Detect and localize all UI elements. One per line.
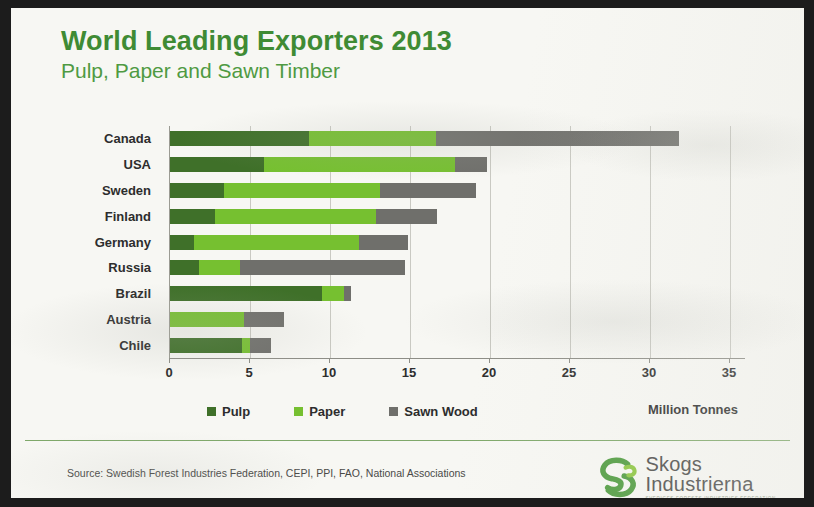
stacked-bar-germany[interactable] [170, 235, 408, 250]
bar-segment-pulp[interactable] [170, 209, 215, 224]
page-subtitle: Pulp, Paper and Sawn Timber [61, 59, 452, 83]
category-label: Chile [71, 332, 159, 358]
stacked-bar-chart: Canada USA Sweden Finland Germany Russia… [11, 118, 804, 418]
photo-border: World Leading Exporters 2013 Pulp, Paper… [0, 0, 814, 507]
x-axis-ticks: 05101520253035 [169, 358, 745, 380]
bar-segment-pulp[interactable] [170, 286, 322, 301]
bar-segment-pulp[interactable] [170, 183, 224, 198]
bar-segment-pulp[interactable] [170, 338, 242, 353]
logo-line-2: Industrierna [645, 474, 776, 494]
bar-segment-sawn-wood[interactable] [250, 338, 271, 353]
chart-legend: Pulp Paper Sawn Wood [207, 404, 478, 419]
stacked-bar-sweden[interactable] [170, 183, 476, 198]
legend-item-paper: Paper [294, 404, 345, 419]
bar-segment-paper[interactable] [322, 286, 344, 301]
x-axis-tick-label: 25 [562, 365, 576, 380]
legend-swatch-icon [389, 407, 398, 416]
bar-segment-paper[interactable] [309, 131, 435, 146]
bar-segment-paper[interactable] [199, 260, 241, 275]
x-axis-tick-label: 0 [165, 365, 172, 380]
x-axis-tick [729, 358, 730, 363]
bar-segment-paper[interactable] [215, 209, 377, 224]
bar-row [170, 152, 746, 178]
x-axis-tick [169, 358, 170, 363]
bar-segment-pulp[interactable] [170, 260, 199, 275]
legend-item-pulp: Pulp [207, 404, 250, 419]
bar-row [170, 255, 746, 281]
bar-segment-paper[interactable] [242, 338, 250, 353]
x-axis-tick-label: 15 [402, 365, 416, 380]
logo-s-mark-icon [597, 456, 639, 498]
bar-segment-paper[interactable] [194, 235, 359, 250]
bar-segment-paper[interactable] [170, 312, 244, 327]
bar-group [170, 126, 746, 358]
x-axis-tick-label: 20 [482, 365, 496, 380]
x-axis-tick [409, 358, 410, 363]
legend-label: Sawn Wood [404, 404, 477, 419]
stacked-bar-usa[interactable] [170, 157, 487, 172]
plot-wrapper: Canada USA Sweden Finland Germany Russia… [71, 126, 771, 376]
bar-segment-sawn-wood[interactable] [376, 209, 437, 224]
logo-line-1: Skogs [645, 454, 776, 474]
category-label: Finland [71, 203, 159, 229]
legend-swatch-icon [207, 407, 216, 416]
x-axis-tick-label: 30 [642, 365, 656, 380]
x-axis-tick [649, 358, 650, 363]
skogsindustrierna-logo: Skogs Industrierna SVERIGES FORESTS INDU… [597, 454, 776, 498]
stacked-bar-austria[interactable] [170, 312, 284, 327]
bar-segment-sawn-wood[interactable] [436, 131, 679, 146]
x-axis-tick [329, 358, 330, 363]
x-axis-tick [249, 358, 250, 363]
category-label: Austria [71, 306, 159, 332]
bar-segment-pulp[interactable] [170, 157, 264, 172]
legend-swatch-icon [294, 407, 303, 416]
category-label: Sweden [71, 178, 159, 204]
bar-row [170, 281, 746, 307]
x-axis-tick-label: 35 [722, 365, 736, 380]
bar-segment-paper[interactable] [264, 157, 454, 172]
logo-wordmark: Skogs Industrierna SVERIGES FORESTS INDU… [645, 454, 776, 498]
legend-label: Paper [309, 404, 345, 419]
stacked-bar-chile[interactable] [170, 338, 271, 353]
stacked-bar-canada[interactable] [170, 131, 679, 146]
legend-item-sawn-wood: Sawn Wood [389, 404, 477, 419]
bar-row [170, 178, 746, 204]
x-axis-tick [489, 358, 490, 363]
x-axis-title: Million Tonnes [648, 402, 738, 417]
x-axis-tick-label: 5 [245, 365, 252, 380]
stacked-bar-russia[interactable] [170, 260, 405, 275]
page-title: World Leading Exporters 2013 [61, 26, 452, 56]
bar-segment-sawn-wood[interactable] [380, 183, 476, 198]
bar-row [170, 126, 746, 152]
footer-divider [25, 440, 790, 441]
category-label: USA [71, 152, 159, 178]
category-label: Germany [71, 229, 159, 255]
bar-row [170, 306, 746, 332]
plot-area [169, 126, 746, 358]
x-axis-tick [569, 358, 570, 363]
slide-canvas: World Leading Exporters 2013 Pulp, Paper… [11, 8, 804, 498]
category-axis-labels: Canada USA Sweden Finland Germany Russia… [71, 126, 159, 358]
bar-segment-sawn-wood[interactable] [455, 157, 487, 172]
bar-segment-sawn-wood[interactable] [359, 235, 409, 250]
bar-segment-pulp[interactable] [170, 131, 309, 146]
legend-label: Pulp [222, 404, 250, 419]
bar-segment-sawn-wood[interactable] [244, 312, 284, 327]
category-label: Russia [71, 255, 159, 281]
stacked-bar-finland[interactable] [170, 209, 437, 224]
bar-segment-sawn-wood[interactable] [344, 286, 350, 301]
category-label: Brazil [71, 281, 159, 307]
category-label: Canada [71, 126, 159, 152]
logo-tagline: SVERIGES FORESTS INDUSTRIES FEDERATION [645, 497, 776, 498]
bar-row [170, 229, 746, 255]
stacked-bar-brazil[interactable] [170, 286, 351, 301]
bar-row [170, 332, 746, 358]
bar-segment-pulp[interactable] [170, 235, 194, 250]
bar-segment-paper[interactable] [224, 183, 379, 198]
bar-segment-sawn-wood[interactable] [240, 260, 405, 275]
slide-header: World Leading Exporters 2013 Pulp, Paper… [61, 26, 452, 83]
bar-row [170, 203, 746, 229]
x-axis-tick-label: 10 [322, 365, 336, 380]
source-note: Source: Swedish Forest Industries Federa… [67, 467, 466, 479]
